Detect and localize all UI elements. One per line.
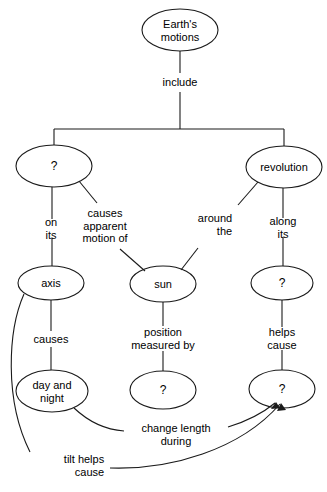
link-label-causes-apparent-motion-of: causes apparent motion of	[82, 207, 127, 245]
link-label-on-its: on its	[45, 216, 57, 241]
link-label-causes: causes	[34, 333, 69, 346]
node-seasons-unknown	[249, 370, 315, 408]
edge-axis-to-seasons-left	[11, 294, 30, 452]
node-sun	[130, 266, 196, 302]
edge-revolution-to-aroundlabel	[238, 182, 258, 205]
node-position-unknown	[130, 371, 196, 409]
node-axis	[18, 266, 84, 300]
edge-causeslabel-to-sun	[120, 249, 145, 271]
node-rotation-unknown	[16, 145, 92, 187]
edge-aroundlabel-to-sun	[181, 248, 198, 270]
node-orbit-unknown	[251, 266, 313, 300]
link-label-change-length-during: change length during	[141, 422, 210, 447]
link-label-position-measured-by: position measured by	[131, 326, 195, 351]
edge-day-night-to-seasons-left	[74, 408, 124, 431]
concept-map-canvas	[0, 0, 327, 492]
link-label-helps-cause: helps cause	[267, 326, 296, 351]
concept-map: Earth's motions ? revolution axis sun ? …	[0, 0, 327, 492]
node-revolution	[246, 146, 322, 188]
link-label-around-the: around the	[198, 212, 232, 237]
link-label-include: include	[163, 76, 198, 89]
node-day-and-night	[16, 370, 88, 412]
link-label-along-its: along its	[270, 215, 297, 240]
edge-rotation-to-causeslabel	[79, 181, 97, 203]
node-earths-motions	[142, 9, 218, 51]
link-label-tilt-helps-cause: tilt helps cause	[64, 453, 104, 478]
